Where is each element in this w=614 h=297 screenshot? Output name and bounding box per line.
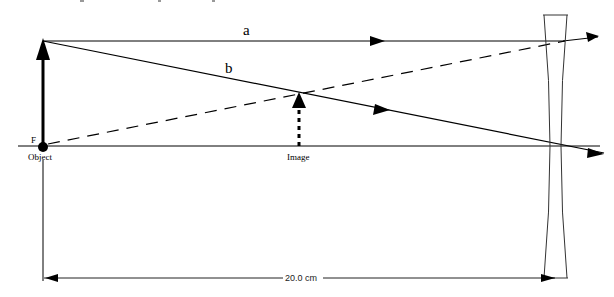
dimension-arrow-left <box>45 274 58 282</box>
focal-point-label: F <box>31 135 36 145</box>
dimension-arrow-right <box>541 274 555 282</box>
image-label: Image <box>287 152 310 162</box>
virtual-ray-dashed <box>48 41 565 144</box>
ray-b-label: b <box>225 60 233 76</box>
ray-b <box>43 41 604 153</box>
focal-point-dot <box>38 142 48 152</box>
ray-diagram: F Object a b Image 20.0 cm <box>0 0 614 297</box>
ray-a-arrowhead <box>370 36 385 46</box>
object-label: Object <box>28 152 52 162</box>
cropped-title-fragment <box>80 0 215 2</box>
ray-b-arrowhead-1 <box>373 104 390 115</box>
distance-label: 20.0 cm <box>285 273 317 283</box>
ray-a-refracted-arrowhead <box>586 32 599 42</box>
ray-a-label: a <box>243 22 250 38</box>
